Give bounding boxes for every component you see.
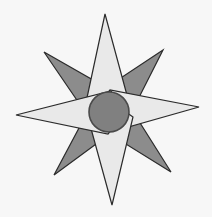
figure-canvas (0, 0, 212, 217)
compass-rose-star (0, 0, 212, 217)
center-circle (89, 92, 129, 132)
